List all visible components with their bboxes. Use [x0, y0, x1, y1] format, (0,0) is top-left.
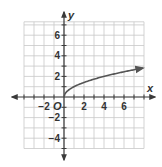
y-tick-label: −4: [49, 133, 61, 144]
x-tick-label: 2: [81, 101, 87, 112]
y-tick-label: 2: [54, 71, 60, 82]
grid-lines: [24, 22, 144, 149]
x-tick-label: 6: [121, 101, 127, 112]
y-tick-label: 6: [54, 30, 60, 41]
origin-label: O: [53, 100, 62, 112]
y-axis-label: y: [67, 9, 75, 21]
coordinate-plane: −2246642−2−4 x y O: [0, 0, 162, 167]
y-tick-label: 4: [54, 50, 60, 61]
x-tick-label: −2: [38, 101, 50, 112]
x-axis-label: x: [146, 82, 154, 94]
y-tick-label: −2: [49, 112, 61, 123]
graph-figure: −2246642−2−4 x y O: [0, 0, 162, 167]
sqrt-curve: [64, 68, 143, 97]
x-tick-label: 4: [101, 101, 107, 112]
